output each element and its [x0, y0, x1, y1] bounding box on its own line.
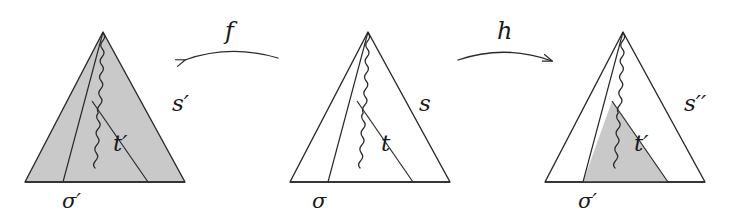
- arrow-h-curve: [458, 52, 552, 61]
- middle-base-label: σ: [312, 191, 326, 212]
- right-side-label: s′′: [684, 92, 706, 115]
- arrow-f-label: f: [225, 19, 234, 43]
- panel-right: [545, 32, 705, 182]
- arrow-h-label: h: [497, 19, 512, 43]
- right-inner-label: t′: [634, 132, 648, 155]
- left-outer-triangle: [25, 32, 185, 182]
- right-base-label: σ′: [578, 191, 597, 212]
- left-side-label: s′: [172, 92, 189, 115]
- middle-inner-label: t: [381, 132, 390, 155]
- left-inner-label: t′: [113, 132, 127, 155]
- middle-side-label: s: [419, 92, 431, 115]
- arrow-f-curve: [185, 51, 278, 60]
- panel-left: [25, 32, 185, 182]
- diagram-canvas: [0, 0, 738, 223]
- figure-root: s′ t′ σ′ s t σ s′′ t′ σ′ f h: [0, 0, 738, 223]
- left-base-label: σ′: [62, 191, 81, 212]
